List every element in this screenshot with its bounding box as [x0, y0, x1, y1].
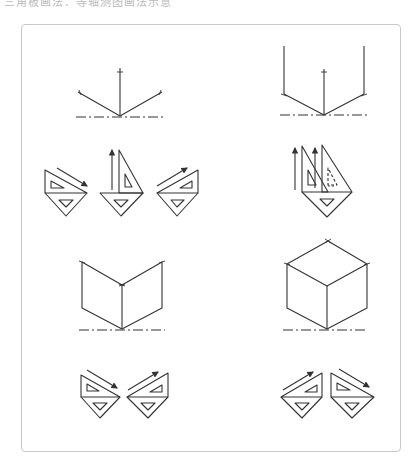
triangles-row2-left-figure: [81, 370, 168, 418]
triangles-row1-right-figure: [295, 145, 352, 217]
diagram-canvas: [0, 0, 419, 471]
cube-figure: [283, 239, 370, 330]
axes-with-verticals-figure: [280, 46, 368, 115]
triangles-row2-right-figure: [281, 369, 374, 418]
triangles-row1-left-figure: [45, 150, 198, 216]
two-faces-figure: [79, 261, 165, 330]
axes-fan-figure: [76, 68, 163, 117]
